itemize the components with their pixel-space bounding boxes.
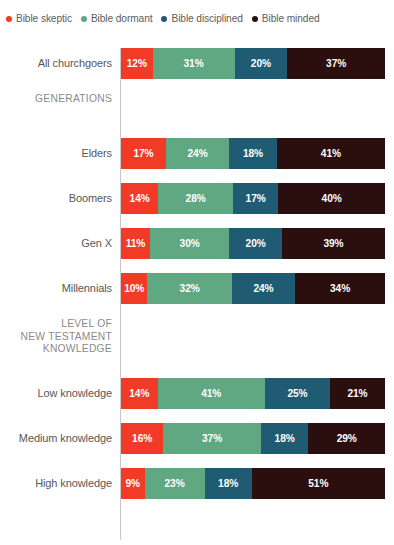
bar-segment-value: 40% xyxy=(322,193,342,204)
bar-segment[interactable]: 37% xyxy=(163,423,261,454)
bar-segment[interactable]: 40% xyxy=(278,183,385,214)
legend-dot-icon xyxy=(252,16,258,22)
bar-segment-value: 24% xyxy=(253,283,273,294)
legend-item-label: Bible skeptic xyxy=(16,14,72,24)
bar-segment[interactable]: 17% xyxy=(233,183,278,214)
bar-segment-value: 21% xyxy=(347,388,367,399)
chart-row: Medium knowledge16%37%18%29% xyxy=(0,423,394,454)
legend-item[interactable]: Bible minded xyxy=(252,14,320,24)
chart-legend: Bible skepticBible dormantBible discipli… xyxy=(6,11,390,27)
bar-segment-value: 20% xyxy=(246,238,266,249)
bar-segment-value: 14% xyxy=(130,193,150,204)
bar-segment[interactable]: 39% xyxy=(282,228,385,259)
bar-segment-value: 24% xyxy=(188,148,208,159)
bar-segment-value: 18% xyxy=(218,478,238,489)
bar-segment-value: 28% xyxy=(186,193,206,204)
chart-row-label: Millennials xyxy=(0,282,112,294)
section-heading-label: GENERATIONS xyxy=(0,93,112,106)
bar-segment-value: 23% xyxy=(165,478,185,489)
stacked-bar: 14%28%17%40% xyxy=(121,183,385,214)
bar-segment[interactable]: 21% xyxy=(330,378,385,409)
bar-segment[interactable]: 23% xyxy=(145,468,205,499)
chart-plot-area: All churchgoers12%31%20%37%GENERATIONSEl… xyxy=(0,45,394,542)
chart-section-heading: LEVEL OFNEW TESTAMENTKNOWLEDGE xyxy=(0,318,394,356)
chart-row-label: Low knowledge xyxy=(0,387,112,399)
bar-segment[interactable]: 14% xyxy=(121,378,158,409)
bar-segment[interactable]: 11% xyxy=(121,228,150,259)
chart-row-label: Medium knowledge xyxy=(0,432,112,444)
bar-segment-value: 16% xyxy=(132,433,152,444)
chart-row-label: All churchgoers xyxy=(0,57,112,69)
bar-segment[interactable]: 41% xyxy=(277,138,385,169)
legend-item-label: Bible dormant xyxy=(91,14,153,24)
legend-item-label: Bible disciplined xyxy=(171,14,242,24)
bar-segment-value: 30% xyxy=(180,238,200,249)
bar-segment-value: 25% xyxy=(287,388,307,399)
bar-segment[interactable]: 17% xyxy=(121,138,166,169)
stacked-bar-chart: Bible skepticBible dormantBible discipli… xyxy=(0,0,394,545)
chart-row-label: Boomers xyxy=(0,192,112,204)
chart-section-heading: GENERATIONS xyxy=(0,93,394,106)
bar-segment[interactable]: 25% xyxy=(265,378,330,409)
bar-segment[interactable]: 18% xyxy=(261,423,309,454)
legend-dot-icon xyxy=(6,16,12,22)
bar-segment[interactable]: 16% xyxy=(121,423,163,454)
bar-segment-value: 29% xyxy=(337,433,357,444)
bar-segment[interactable]: 28% xyxy=(158,183,233,214)
chart-row: Boomers14%28%17%40% xyxy=(0,183,394,214)
chart-row-label: High knowledge xyxy=(0,477,112,489)
stacked-bar: 16%37%18%29% xyxy=(121,423,385,454)
legend-dot-icon xyxy=(81,16,87,22)
chart-row-label: Elders xyxy=(0,147,112,159)
bar-segment[interactable]: 10% xyxy=(121,273,147,304)
stacked-bar: 12%31%20%37% xyxy=(121,48,385,79)
bar-segment-value: 20% xyxy=(251,58,271,69)
bar-segment[interactable]: 37% xyxy=(287,48,385,79)
bar-segment[interactable]: 41% xyxy=(158,378,265,409)
section-heading-label: LEVEL OFNEW TESTAMENTKNOWLEDGE xyxy=(0,318,112,356)
bar-segment-value: 41% xyxy=(321,148,341,159)
bar-segment[interactable]: 30% xyxy=(150,228,229,259)
bar-segment[interactable]: 34% xyxy=(295,273,385,304)
chart-row: Gen X11%30%20%39% xyxy=(0,228,394,259)
chart-row: High knowledge9%23%18%51% xyxy=(0,468,394,499)
bar-segment-value: 31% xyxy=(184,58,204,69)
bar-segment[interactable]: 51% xyxy=(252,468,385,499)
bar-segment[interactable]: 24% xyxy=(232,273,295,304)
bar-segment-value: 39% xyxy=(323,238,343,249)
legend-item[interactable]: Bible disciplined xyxy=(161,14,242,24)
stacked-bar: 10%32%24%34% xyxy=(121,273,385,304)
bar-segment-value: 10% xyxy=(124,283,144,294)
bar-segment[interactable]: 12% xyxy=(121,48,153,79)
bar-segment[interactable]: 18% xyxy=(205,468,252,499)
bar-segment[interactable]: 20% xyxy=(229,228,282,259)
legend-item[interactable]: Bible skeptic xyxy=(6,14,72,24)
bar-segment[interactable]: 18% xyxy=(229,138,277,169)
bar-segment-value: 37% xyxy=(326,58,346,69)
stacked-bar: 17%24%18%41% xyxy=(121,138,385,169)
bar-segment-value: 14% xyxy=(129,388,149,399)
legend-item-label: Bible minded xyxy=(262,14,320,24)
bar-segment-value: 41% xyxy=(201,388,221,399)
bar-segment-value: 11% xyxy=(126,238,146,249)
stacked-bar: 14%41%25%21% xyxy=(121,378,385,409)
chart-row-label: Gen X xyxy=(0,237,112,249)
bar-segment-value: 51% xyxy=(308,478,328,489)
bar-segment[interactable]: 14% xyxy=(121,183,158,214)
chart-row: Low knowledge14%41%25%21% xyxy=(0,378,394,409)
bar-segment[interactable]: 29% xyxy=(308,423,385,454)
legend-item[interactable]: Bible dormant xyxy=(81,14,153,24)
chart-row: Elders17%24%18%41% xyxy=(0,138,394,169)
bar-segment-value: 17% xyxy=(246,193,266,204)
chart-row: All churchgoers12%31%20%37% xyxy=(0,48,394,79)
legend-dot-icon xyxy=(161,16,167,22)
stacked-bar: 11%30%20%39% xyxy=(121,228,385,259)
bar-segment[interactable]: 9% xyxy=(121,468,145,499)
bar-segment[interactable]: 32% xyxy=(147,273,231,304)
bar-segment-value: 17% xyxy=(133,148,153,159)
bar-segment-value: 9% xyxy=(125,478,140,489)
bar-segment[interactable]: 20% xyxy=(235,48,288,79)
bar-segment[interactable]: 24% xyxy=(166,138,229,169)
chart-row: Millennials10%32%24%34% xyxy=(0,273,394,304)
bar-segment[interactable]: 31% xyxy=(153,48,235,79)
